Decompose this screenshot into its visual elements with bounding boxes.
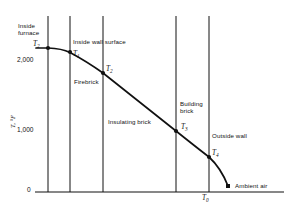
region-label-outside-wall: Outside wall (212, 132, 247, 139)
region-label-ambient-air: Ambient air (235, 182, 267, 189)
y-tick-2000: 2,000 (17, 56, 34, 63)
node-symbol-sub: 1 (77, 53, 80, 59)
y-tick-0: 0 (27, 186, 31, 193)
node-symbol-T3: T3 (181, 123, 188, 132)
point-marker-T4 (207, 155, 211, 159)
point-marker-T2 (101, 71, 105, 75)
node-symbol-sub: 3 (185, 126, 188, 132)
region-label-inside-furnace: Inside furnace (18, 22, 39, 36)
layer-label-building-brick: Building brick (180, 100, 210, 114)
point-marker-T0-ambient (226, 184, 230, 188)
node-symbol-T4: T4 (212, 149, 219, 158)
node-symbol-T0-ambient: T0 (202, 194, 209, 203)
node-symbol-sub: 2 (110, 68, 113, 74)
region-label-inside-wall-surface: Inside wall surface (73, 38, 126, 45)
node-symbol-sub: 4 (216, 152, 219, 158)
point-marker-T2-furnace (46, 46, 50, 50)
node-symbol-T1: T1 (73, 50, 80, 59)
node-symbol-sub: 0 (206, 197, 209, 203)
node-symbol-sub: 2 (37, 43, 40, 49)
temperature-profile-figure: T, °F 2,000 1,000 0 Inside furnace Insid… (0, 0, 294, 221)
y-axis-label: T, °F (9, 115, 16, 128)
layer-label-insulating-brick: Insulating brick (108, 118, 151, 125)
y-tick-1000: 1,000 (17, 126, 34, 133)
node-symbol-T2: T2 (106, 65, 113, 74)
node-symbol-T2-furnace: T2 (33, 40, 40, 49)
temperature-profile-curve (36, 48, 228, 186)
layer-label-firebrick: Firebrick (74, 78, 99, 85)
point-marker-T1 (68, 50, 72, 54)
point-marker-T3 (174, 129, 178, 133)
